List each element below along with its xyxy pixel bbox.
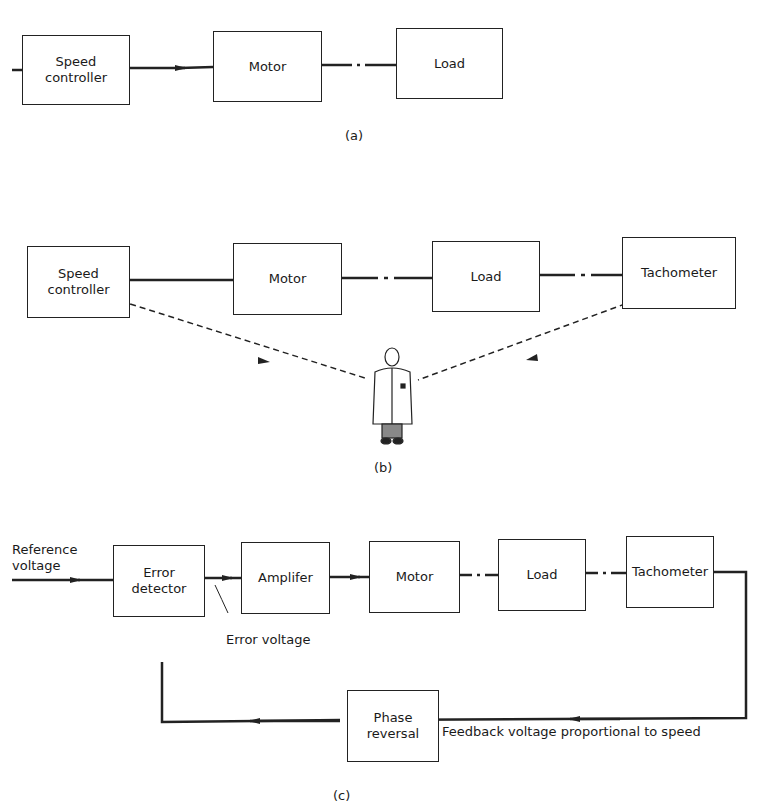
block-label: Tachometer — [641, 265, 717, 281]
feedback-voltage-label: Feedback voltage proportional to speed — [442, 724, 701, 740]
block-label: Speed controller — [47, 266, 109, 298]
block-label: Load — [470, 269, 501, 285]
block-label: Amplifer — [258, 570, 313, 586]
block-motor-a: Motor — [213, 31, 322, 102]
block-label: Tachometer — [632, 564, 708, 580]
block-tachometer-c: Tachometer — [626, 536, 714, 608]
error-voltage-label: Error voltage — [226, 632, 310, 648]
block-label: Load — [526, 567, 557, 583]
block-load-a: Load — [396, 28, 503, 99]
block-load-b: Load — [432, 241, 540, 312]
block-label: Motor — [269, 271, 307, 287]
block-motor-c: Motor — [369, 541, 460, 613]
block-amplifier: Amplifer — [241, 542, 330, 614]
block-load-c: Load — [498, 539, 586, 611]
block-label: Speed controller — [45, 54, 107, 86]
block-speed-controller-a: Speed controller — [22, 35, 130, 105]
block-label: Load — [434, 56, 465, 72]
block-speed-controller-b: Speed controller — [27, 246, 130, 318]
caption-a: (a) — [345, 128, 363, 143]
caption-c: (c) — [333, 788, 350, 803]
block-phase-reversal: Phase reversal — [347, 690, 439, 762]
block-label: Motor — [396, 569, 434, 585]
caption-b: (b) — [374, 460, 392, 475]
reference-voltage-label: Reference voltage — [12, 542, 77, 574]
block-label: Motor — [249, 59, 287, 75]
block-motor-b: Motor — [233, 243, 342, 315]
block-error-detector: Error detector — [113, 545, 205, 617]
block-label: Error detector — [132, 565, 187, 597]
block-label: Phase reversal — [367, 710, 419, 742]
block-tachometer-b: Tachometer — [622, 237, 736, 309]
operator-figure-icon — [373, 348, 412, 444]
